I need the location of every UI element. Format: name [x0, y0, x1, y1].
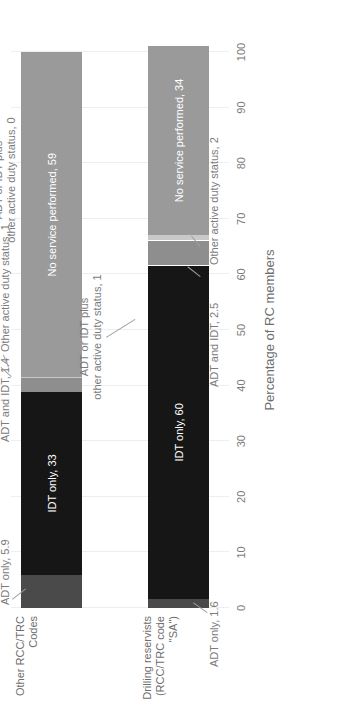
bar-drilling-reservists: IDT only, 60 No service performed, 34 — [148, 52, 209, 608]
annotation-line1: ADT or IDT plus — [78, 247, 91, 427]
segment-idt-only[interactable]: IDT only, 60 — [148, 266, 209, 600]
annotation-bar1-adt-or-idt-plus-other: ADT or IDT plus other active duty status… — [0, 100, 18, 260]
xtick-60: 60 — [235, 254, 247, 294]
annotation-bar1-adt-only: ADT only, 5.9 — [0, 539, 12, 605]
category-label-line1: Drilling reservists — [141, 616, 154, 717]
category-label-line2: Codes — [27, 616, 40, 717]
xtick-0: 0 — [235, 588, 247, 628]
segment-other-active-duty-status[interactable] — [21, 378, 82, 384]
xtick-30: 30 — [235, 421, 247, 461]
xtick-100: 100 — [235, 32, 247, 72]
segment-label-no-service-performed: No service performed, 59 — [46, 153, 58, 277]
segment-label-idt-only: IDT only, 60 — [173, 403, 185, 461]
category-label-other-rcc-trc-codes: Other RCC/TRC Codes — [14, 616, 40, 717]
segment-label-no-service-performed: No service performed, 34 — [173, 79, 185, 203]
segment-idt-only[interactable]: IDT only, 33 — [21, 392, 82, 576]
segment-no-service-performed[interactable]: No service performed, 34 — [148, 46, 209, 235]
annotation-bar2-adt-only: ADT only, 1.6 — [208, 601, 221, 667]
xtick-90: 90 — [235, 88, 247, 128]
chart-canvas: IDT only, 33 No service performed, 59 — [0, 0, 349, 717]
segment-adt-or-idt-plus-other[interactable] — [21, 378, 82, 379]
annotation-bar2-adt-or-idt-plus-other: ADT or IDT plus other active duty status… — [78, 247, 104, 427]
category-label-drilling-reservists: Drilling reservists (RCC/TRC code "SA") — [141, 616, 180, 717]
segment-adt-only[interactable] — [21, 575, 82, 608]
annotation-bar2-other-active-duty-status: Other active duty status, 2 — [208, 137, 221, 265]
segment-adt-and-idt[interactable] — [148, 252, 209, 266]
xtick-40: 40 — [235, 366, 247, 406]
category-label-line1: Other RCC/TRC — [14, 616, 27, 717]
segment-label-idt-only: IDT only, 33 — [46, 454, 58, 512]
bar-other-rcc-trc-codes: IDT only, 33 No service performed, 59 — [21, 52, 82, 608]
x-axis-title: Percentage of RC members — [262, 180, 277, 480]
annotation-bar2-adt-and-idt: ADT and IDT, 2.5 — [208, 303, 221, 387]
annotation-line2: other active duty status, 1 — [91, 247, 104, 427]
category-label-line2: (RCC/TRC code "SA") — [154, 616, 180, 717]
segment-no-service-performed[interactable]: No service performed, 59 — [21, 52, 82, 378]
plot-area: IDT only, 33 No service performed, 59 — [11, 52, 229, 608]
xtick-10: 10 — [235, 532, 247, 572]
annotation-line2: other active duty status, 0 — [5, 100, 18, 260]
xtick-20: 20 — [235, 477, 247, 517]
xtick-70: 70 — [235, 199, 247, 239]
xtick-80: 80 — [235, 143, 247, 183]
segment-adt-and-idt[interactable] — [21, 384, 82, 392]
rotated-figure: IDT only, 33 No service performed, 59 — [0, 0, 349, 717]
segment-adt-or-idt-plus-other[interactable] — [148, 235, 209, 241]
xtick-50: 50 — [235, 310, 247, 350]
